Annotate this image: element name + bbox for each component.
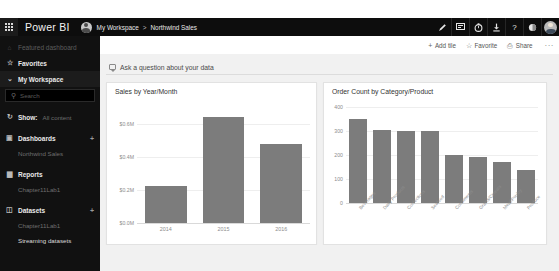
sidebar-item-label: Favorites (18, 60, 47, 67)
y-tick-label: 100 (334, 176, 343, 182)
show-filter-value: All content (43, 114, 72, 121)
star-icon: ☆ (466, 42, 472, 49)
add-dashboard-icon[interactable]: + (90, 135, 94, 142)
breadcrumb-workspace[interactable]: My Workspace (97, 24, 139, 31)
help-icon-glyph: ? (512, 23, 516, 32)
search-icon: ⚲ (11, 92, 16, 100)
bar-beverages[interactable] (349, 119, 366, 203)
notifications-icon[interactable] (469, 18, 487, 36)
dataset-icon: ◫ (6, 207, 13, 214)
dashboard-icon: ▣ (6, 135, 13, 142)
x-tick-label-wrap: Confections (394, 205, 418, 235)
bar-column[interactable] (442, 107, 466, 203)
sidebar: ⌂ Featured dashboard ☆ Favorites ⌄ My Wo… (0, 36, 100, 271)
favorite-label: Favorite (474, 42, 497, 49)
y-tick-label: $0.6M (120, 121, 134, 127)
user-avatar-icon[interactable] (541, 18, 559, 36)
x-tick-label: 2014 (137, 226, 195, 232)
bar-2015[interactable] (203, 117, 245, 223)
x-tick-label-wrap: Seafood (418, 205, 442, 235)
sidebar-group-label: Reports (18, 171, 43, 178)
sidebar-item-my-workspace[interactable]: ⌄ My Workspace (0, 71, 100, 87)
bar-condiments[interactable] (445, 155, 462, 203)
more-options-icon[interactable]: ··· (543, 41, 555, 50)
bar-grains-cereals[interactable] (469, 157, 486, 203)
bar-column[interactable] (195, 109, 253, 223)
add-tile-button[interactable]: + Add tile (428, 42, 456, 49)
bar-produce[interactable] (517, 170, 534, 203)
sidebar-group-label: Dashboards (18, 135, 56, 142)
bar-dairy-products[interactable] (373, 130, 390, 203)
sidebar-group-reports[interactable]: ▆ Reports (0, 166, 100, 182)
report-icon: ▆ (6, 171, 13, 178)
add-tile-label: Add tile (435, 42, 456, 49)
chart-plot-area: $0.6M $0.4M $0.2M $0.0M (107, 100, 316, 244)
x-tick-label: 2015 (195, 226, 253, 232)
sidebar-group-datasets[interactable]: ◫ Datasets + (0, 202, 100, 218)
favorite-button[interactable]: ☆ Favorite (466, 42, 497, 49)
bar-meat-poultry[interactable] (493, 162, 510, 203)
refresh-icon: ↻ (6, 114, 13, 121)
y-tick-label: $0.0M (120, 220, 134, 226)
ask-question-input[interactable]: Ask a question about your data (106, 60, 553, 75)
canvas-bottom-area (100, 245, 559, 271)
chart-x-axis-labels: Beverages Dairy Products Confections Sea… (346, 205, 538, 235)
star-icon: ☆ (6, 60, 13, 67)
waffle-grid-icon[interactable] (0, 18, 18, 36)
sidebar-item-streaming-datasets[interactable]: Streaming datasets (0, 233, 100, 248)
bar-2014[interactable] (145, 186, 187, 223)
header-icon-group: ? (433, 18, 559, 36)
help-icon[interactable]: ? (505, 18, 523, 36)
breadcrumb-current[interactable]: Northwind Sales (151, 24, 198, 31)
bar-2016[interactable] (260, 144, 302, 223)
chart-plot-area: 400 300 200 100 0 (324, 100, 546, 244)
sidebar-item-label: Featured dashboard (18, 44, 77, 51)
share-label: Share (516, 42, 533, 49)
bar-column[interactable] (370, 107, 394, 203)
x-tick-label: 2016 (252, 226, 310, 232)
command-bar: + Add tile ☆ Favorite ⎙ Share ··· (100, 36, 559, 54)
sidebar-item-featured-dashboard[interactable]: ⌂ Featured dashboard (0, 39, 100, 55)
chart-y-axis: $0.6M $0.4M $0.2M $0.0M (107, 100, 137, 244)
sidebar-item-show-filter[interactable]: ↻ Show: All content (0, 109, 100, 125)
search-input-placeholder: Search (20, 92, 40, 99)
x-tick-label-wrap: Beverages (346, 205, 370, 235)
y-tick-label: 300 (334, 128, 343, 134)
dashboard-canvas: Ask a question about your data Sales by … (100, 54, 559, 271)
plus-icon: + (428, 42, 432, 49)
bar-column[interactable] (252, 109, 310, 223)
tile-sales-by-year-month[interactable]: Sales by Year/Month $0.6M $0.4M $0.2M $0… (106, 82, 317, 245)
y-tick-label: 200 (334, 152, 343, 158)
share-icon: ⎙ (507, 42, 513, 49)
chart-x-axis-line (137, 223, 310, 224)
breadcrumb: My Workspace > Northwind Sales (97, 24, 197, 31)
search-input[interactable]: ⚲ Search (5, 89, 95, 102)
breadcrumb-separator: > (143, 24, 147, 31)
sidebar-item-dashboard-northwind-sales[interactable]: Northwind Sales (0, 146, 100, 161)
sidebar-item-label: My Workspace (18, 76, 63, 83)
feedback-icon[interactable] (451, 18, 469, 36)
sidebar-group-dashboards[interactable]: ▣ Dashboards + (0, 130, 100, 146)
share-button[interactable]: ⎙ Share (507, 42, 532, 49)
tile-title: Sales by Year/Month (115, 88, 177, 95)
bar-column[interactable] (137, 109, 195, 223)
y-tick-label: $0.2M (120, 187, 134, 193)
y-tick-label: 0 (340, 200, 343, 206)
app-header: Power BI My Workspace > Northwind Sales (0, 18, 559, 36)
tile-order-count-by-category-product[interactable]: Order Count by Category/Product 400 300 … (323, 82, 547, 245)
sidebar-group-label: Datasets (18, 207, 45, 214)
brand-title[interactable]: Power BI (25, 21, 70, 33)
pen-icon[interactable] (433, 18, 451, 36)
workspace-avatar-icon (81, 22, 92, 33)
chevron-down-icon: ⌄ (6, 76, 13, 83)
page-top-strip (0, 0, 559, 18)
bar-column[interactable] (346, 107, 370, 203)
download-icon[interactable] (487, 18, 505, 36)
sidebar-item-dataset-chapter11lab1[interactable]: Chapter11Lab1 (0, 218, 100, 233)
tile-title: Order Count by Category/Product (332, 88, 433, 95)
sidebar-item-favorites[interactable]: ☆ Favorites (0, 55, 100, 71)
sidebar-item-report-chapter11lab1[interactable]: Chapter11Lab1 (0, 182, 100, 197)
qa-bubble-icon (109, 64, 116, 70)
add-dataset-icon[interactable]: + (90, 207, 94, 214)
settings-icon[interactable] (523, 18, 541, 36)
